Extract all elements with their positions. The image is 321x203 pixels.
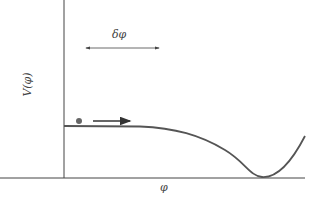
diagram-canvas — [0, 0, 321, 203]
y-axis-label: V(φ) — [21, 72, 34, 96]
x-axis-label: φ — [160, 181, 168, 194]
potential-curve — [64, 126, 305, 177]
potential-diagram: δφ V(φ) φ — [0, 0, 321, 203]
field-ball — [76, 118, 82, 124]
delta-phi-label: δφ — [112, 28, 126, 41]
